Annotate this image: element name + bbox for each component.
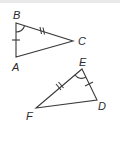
angle-e-arc-mark xyxy=(75,75,86,78)
vertex-label-b: B xyxy=(13,9,20,21)
triangle-abc-outline xyxy=(16,23,73,57)
vertex-label-a: A xyxy=(11,61,19,73)
congruent-triangles-diagram: B A C E D F xyxy=(0,0,120,146)
vertex-label-d: D xyxy=(98,100,106,112)
triangle-edf xyxy=(36,69,97,108)
angle-b-arc-mark xyxy=(16,26,25,32)
vertex-label-e: E xyxy=(79,56,87,68)
triangle-abc xyxy=(12,23,73,57)
vertex-label-f: F xyxy=(26,110,34,122)
side-bc-tick-mark-2 xyxy=(43,28,45,35)
triangle-edf-outline xyxy=(36,69,97,108)
vertex-label-c: C xyxy=(78,35,86,47)
side-bc-tick-mark-1 xyxy=(40,27,42,34)
